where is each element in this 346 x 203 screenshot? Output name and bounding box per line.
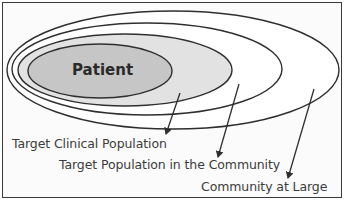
label-target-clinical-population: Target Clinical Population	[12, 138, 167, 151]
patient-label: Patient	[72, 63, 133, 78]
ellipses-layer	[0, 0, 346, 203]
label-target-population-in-community: Target Population in the Community	[59, 159, 280, 172]
label-community-at-large: Community at Large	[201, 181, 327, 194]
nested-population-diagram: Patient Target Clinical Population Targe…	[0, 0, 346, 203]
